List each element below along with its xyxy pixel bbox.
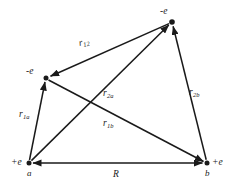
diagram-canvas: [0, 0, 238, 191]
edge-r1a: [30, 82, 46, 160]
charge-label-electron-1: -e: [26, 67, 33, 77]
node-dot-proton-a: [27, 161, 32, 166]
edge-r12: [51, 24, 170, 77]
charge-label-electron-2: -e: [160, 7, 167, 17]
edge-label-R: R: [113, 170, 119, 180]
vertex-label-proton-b: b: [205, 169, 210, 178]
edge-label-r2b-sub: 2b: [193, 91, 200, 98]
edge-label-r12: r12: [78, 37, 90, 49]
edge-label-r2a-sub: 2a: [107, 92, 114, 99]
node-dot-electron-1: [44, 76, 49, 81]
charge-label-proton-b: +e: [212, 158, 223, 168]
edge-label-r12-sub: 12: [82, 40, 90, 48]
node-dot-proton-b: [205, 161, 210, 166]
edge-label-R-base: R: [113, 169, 119, 179]
vector-diagram-figure: +e a +e b -e -e r12 r2a r2b r1a r1b R: [0, 0, 238, 191]
edge-R-arrowhead-left: [33, 160, 42, 167]
edge-label-r2b: r2b: [189, 88, 199, 98]
edge-label-r1b-sub: 1b: [107, 122, 114, 129]
node-dot-electron-2: [169, 19, 175, 25]
edge-label-r1a-sub: 1a: [23, 113, 30, 120]
edge-label-r1b: r1b: [103, 119, 113, 129]
edge-r2a: [31, 25, 168, 161]
edge-label-r1a: r1a: [19, 110, 29, 120]
edge-label-r2a: r2a: [103, 89, 113, 99]
charge-label-proton-a: +e: [11, 158, 22, 168]
vertex-label-proton-a: a: [27, 169, 32, 178]
